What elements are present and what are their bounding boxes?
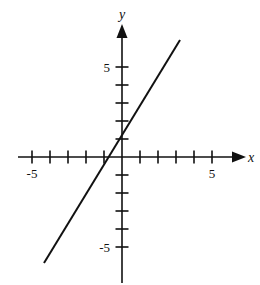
y-tick-label-negative-five: -5 [99, 240, 110, 255]
linear-graph-figure: -5 5 5 -5 x y [0, 0, 260, 285]
y-axis-arrowhead-icon [117, 24, 128, 38]
x-tick-label-positive-five: 5 [209, 166, 216, 181]
x-axis-arrowhead-icon [232, 152, 246, 163]
plotted-line [44, 40, 180, 263]
x-axis-name-label: x [247, 150, 255, 165]
y-axis-group [116, 24, 129, 283]
x-tick-label-negative-five: -5 [27, 166, 38, 181]
coordinate-plane-svg: -5 5 5 -5 x y [0, 0, 260, 285]
y-tick-label-positive-five: 5 [104, 60, 111, 75]
y-axis-name-label: y [117, 7, 126, 22]
x-axis-group [18, 151, 246, 164]
